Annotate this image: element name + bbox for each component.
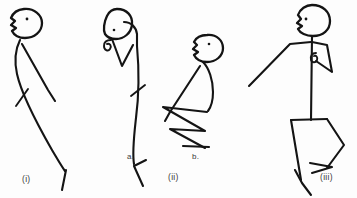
figure-iii-arm-right — [312, 42, 332, 72]
figure-i-label: (i) — [22, 174, 30, 184]
figure-i-arm — [22, 44, 55, 101]
figure-ii-b-head-icon — [193, 35, 223, 62]
figure-iii-label: (iii) — [320, 172, 333, 182]
figure-ii-a-head-icon — [104, 9, 132, 39]
figure-i-foot — [62, 170, 66, 190]
figure-ii-a-foot — [134, 160, 146, 186]
stick-figure-illustration: (i) a. — [0, 0, 357, 198]
figure-ii-a-arm-curl — [104, 40, 111, 50]
figure-iii-foot-front — [295, 170, 311, 195]
figure-ii-b: b. — [163, 35, 223, 161]
figure-ii-a-leg — [133, 46, 138, 164]
figure-iii-hip — [291, 119, 327, 120]
figure-i-head-icon — [11, 9, 42, 38]
figure-ii-a-label: a. — [127, 152, 134, 161]
figure-ii-a-torso-fold — [112, 39, 133, 66]
figure-i-spine-leg — [16, 40, 65, 171]
figure-ii-b-arm — [165, 66, 200, 121]
figure-ii-b-foot — [183, 146, 209, 147]
figure-i-eye-icon — [26, 18, 29, 21]
figure-ii-label: (ii) — [168, 172, 179, 182]
figure-iii-head-icon — [297, 5, 330, 36]
figure-ii-b-back — [203, 62, 213, 111]
figure-ii-b-eye-icon — [208, 43, 211, 46]
sketch-canvas: (i) a. — [0, 0, 357, 198]
figure-ii-a: a. — [104, 9, 146, 186]
figure-iii-eye-icon — [305, 18, 308, 21]
figure-iii-leg-back — [327, 119, 344, 168]
figure-iii: (iii) — [249, 5, 344, 195]
figure-iii-torso — [311, 36, 312, 120]
figure-ii-b-label: b. — [192, 152, 199, 161]
figure-ii-a-eye-icon — [113, 29, 116, 32]
figure-iii-arm-left — [249, 42, 311, 86]
figure-i: (i) — [11, 9, 66, 190]
